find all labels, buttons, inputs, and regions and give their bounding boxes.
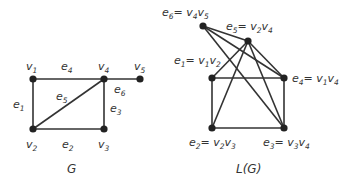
lg-vertex-e3 <box>280 124 287 131</box>
lg-vertex-label-e6: e6= v4v5 <box>162 6 209 21</box>
vertex-label-v1: v1 <box>26 60 37 75</box>
caption-line-graph: L(G) <box>236 162 261 176</box>
lg-vertex-e5 <box>244 37 251 44</box>
graph-g: e1e2e3e4e5e6v1v2v3v4v5 <box>13 60 146 153</box>
vertex-label-v4: v4 <box>98 60 110 75</box>
vertex-v1 <box>29 75 36 82</box>
lg-edge-e3-e5 <box>248 41 284 128</box>
caption-g: G <box>67 162 76 176</box>
line-graph-lg: e1= v1v2e2= v2v3e3= v3v4e4= v1v4e5= v2v4… <box>162 6 339 151</box>
vertex-v3 <box>100 125 107 132</box>
vertex-v5 <box>136 75 143 82</box>
vertex-v2 <box>29 125 36 132</box>
vertex-label-v3: v3 <box>98 138 110 153</box>
lg-vertex-label-e1: e1= v1v2 <box>174 54 221 69</box>
edge-e5 <box>33 79 104 129</box>
edge-label-e3: e3 <box>110 102 122 117</box>
lg-vertex-label-e5: e5= v2v4 <box>226 20 273 35</box>
edge-label-e5: e5 <box>56 90 68 105</box>
lg-vertex-e2 <box>208 124 215 131</box>
lg-vertex-label-e2: e2= v2v3 <box>189 136 236 151</box>
lg-vertex-e6 <box>199 22 206 29</box>
lg-edge-e4-e5 <box>248 41 284 78</box>
vertex-label-v5: v5 <box>134 60 146 75</box>
vertex-label-v2: v2 <box>26 138 38 153</box>
lg-vertex-e4 <box>280 74 287 81</box>
vertex-v4 <box>100 75 107 82</box>
lg-vertex-label-e3: e3= v3v4 <box>263 136 310 151</box>
edge-label-e2: e2 <box>62 138 74 153</box>
lg-edge-e2-e5 <box>212 41 248 128</box>
lg-vertex-label-e4: e4= v1v4 <box>292 72 339 87</box>
edge-label-e4: e4 <box>61 60 73 75</box>
edge-label-e1: e1 <box>13 98 25 113</box>
diagram-canvas: e1e2e3e4e5e6v1v2v3v4v5 e1= v1v2e2= v2v3e… <box>0 0 353 185</box>
edge-label-e6: e6 <box>114 83 126 98</box>
lg-vertex-e1 <box>208 74 215 81</box>
